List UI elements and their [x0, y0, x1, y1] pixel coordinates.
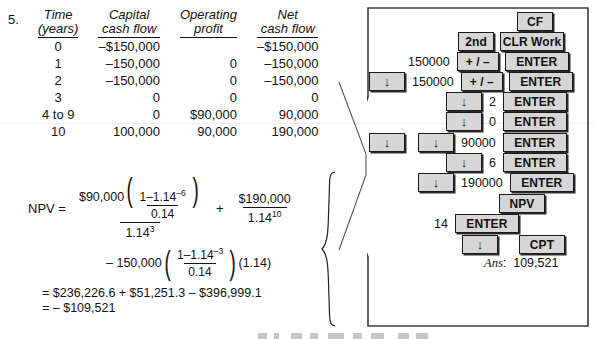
right-paren-icon: ) [192, 176, 198, 203]
annuity-numerator: 1–1.14–6 [135, 188, 189, 205]
keystroke-row-rate: 14 ENTER [430, 214, 522, 233]
key-down-arrow-icon[interactable]: ↓ [446, 112, 482, 131]
cell-capital: 100,000 [88, 123, 169, 140]
column-header-capital-cash-flow: Capital cash flow [88, 8, 169, 38]
problem-number: 5. [8, 12, 19, 27]
term-2-denominator: 1.1410 [243, 207, 287, 225]
term-3-trailing: (1.14) [238, 256, 271, 270]
term-2-numerator: $190,000 [234, 192, 296, 207]
cell-operating: $90,000 [170, 106, 247, 123]
cell-capital: –150,000 [88, 72, 169, 89]
key-enter[interactable]: ENTER [503, 112, 567, 131]
key-2nd[interactable]: 2nd [458, 32, 494, 51]
calculator-keystroke-panel: CF 2nd CLR Work 150000 + / – ENTER ↓ 150… [367, 7, 589, 327]
right-paren-icon: ) [230, 249, 236, 276]
cell-time: 0 [28, 38, 88, 55]
cell-operating [170, 38, 247, 55]
cash-flow-table: Time (years) Capital cash flow Operating… [28, 8, 328, 140]
entry-value-150000-b: 150000 [412, 75, 454, 89]
cell-time: 2 [28, 72, 88, 89]
key-cf[interactable]: CF [517, 12, 553, 31]
key-enter[interactable]: ENTER [510, 173, 574, 192]
operator-plus: + [216, 201, 224, 216]
cell-net: –150,000 [247, 72, 328, 89]
npv-formula-block: NPV = $90,000(1–1.14–60.14) 1.143 + $190… [28, 176, 300, 316]
cell-operating: 0 [170, 55, 247, 72]
answer-value: 109,521 [513, 256, 558, 270]
keystroke-rows: CF 2nd CLR Work 150000 + / – ENTER ↓ 150… [367, 7, 589, 327]
key-enter[interactable]: ENTER [505, 52, 569, 71]
table-header-row: Time (years) Capital cash flow Operating… [28, 8, 328, 38]
annuity-exponent: –3 [214, 246, 223, 256]
key-enter[interactable]: ENTER [455, 214, 519, 233]
table-row: 3 0 0 0 [28, 89, 328, 106]
entry-value-2: 2 [489, 95, 496, 109]
term-3-annuity-factor: 1–1.14–30.14 [173, 246, 227, 279]
npv-formula-line-2: – 150,000(1–1.14–30.14)(1.14) [106, 246, 300, 279]
entry-value-90000: 90000 [461, 136, 496, 150]
answer-colon: : [503, 256, 506, 270]
key-down-arrow-icon[interactable]: ↓ [418, 173, 454, 192]
key-plus-minus[interactable]: + / – [457, 52, 499, 71]
cell-capital: 0 [88, 89, 169, 106]
keystroke-row-compute: ↓ CPT [459, 235, 568, 254]
cell-operating: 0 [170, 72, 247, 89]
key-down-arrow-icon[interactable]: ↓ [418, 133, 454, 152]
cell-operating: 90,000 [170, 123, 247, 140]
entry-value-6: 6 [489, 156, 496, 170]
npv-result-line-1: = $236,226.6 + $51,251.3 – $396,999.1 [42, 286, 300, 301]
column-header-net-cash-flow: Net cash flow [247, 8, 328, 38]
left-paren-icon: ( [164, 249, 170, 276]
key-clr-work[interactable]: CLR Work [500, 32, 564, 51]
annuity-exponent: –6 [176, 188, 185, 198]
npv-label: NPV = [28, 201, 66, 216]
npv-result-block: = $236,226.6 + $51,251.3 – $396,999.1 = … [42, 286, 300, 316]
term-1-numerator: $90,000(1–1.14–60.14) [74, 176, 206, 222]
key-enter[interactable]: ENTER [503, 153, 567, 172]
keystroke-row-f01: ↓ 2 ENTER [443, 92, 570, 111]
key-enter[interactable]: ENTER [509, 72, 573, 91]
cell-net: 190,000 [247, 123, 328, 140]
key-cpt[interactable]: CPT [519, 235, 565, 254]
cell-net: 90,000 [247, 106, 328, 123]
annuity-denominator: 0.14 [147, 205, 178, 221]
key-plus-minus[interactable]: + / – [461, 72, 503, 91]
key-down-arrow-icon[interactable]: ↓ [462, 235, 498, 254]
column-header-operating-profit: Operating profit [170, 8, 247, 38]
entry-value-14: 14 [434, 217, 448, 231]
keystroke-row-c04: ↓ 190000 ENTER [415, 173, 577, 192]
npv-result-line-2: = – $109,521 [42, 301, 300, 316]
npv-formula-line-1: NPV = $90,000(1–1.14–60.14) 1.143 + $190… [28, 176, 300, 240]
keystroke-row-cf0: 150000 + / – ENTER [404, 52, 572, 71]
key-enter[interactable]: ENTER [503, 133, 567, 152]
table-row: 2 –150,000 0 –150,000 [28, 72, 328, 89]
keystroke-row-npv: NPV [496, 194, 548, 213]
cell-time: 10 [28, 123, 88, 140]
annuity-numerator: 1–1.14–3 [173, 246, 227, 263]
cell-time: 1 [28, 55, 88, 72]
keystroke-row-cf: CF [514, 12, 556, 31]
table-row: 10 100,000 90,000 190,000 [28, 123, 328, 140]
cell-net: –150,000 [247, 55, 328, 72]
key-npv[interactable]: NPV [499, 194, 545, 213]
cell-capital: –$150,000 [88, 38, 169, 55]
cell-capital: 0 [88, 106, 169, 123]
calculator-answer: Ans: 109,521 [484, 256, 558, 271]
npv-term-1: $90,000(1–1.14–60.14) 1.143 [70, 176, 210, 240]
term-1-annuity-factor: 1–1.14–60.14 [135, 188, 189, 221]
key-down-arrow-icon[interactable]: ↓ [446, 153, 482, 172]
cell-time: 3 [28, 89, 88, 106]
cell-net: 0 [247, 89, 328, 106]
cell-net: –$150,000 [247, 38, 328, 55]
key-down-arrow-icon[interactable]: ↓ [369, 133, 405, 152]
keystroke-row-f03: ↓ 6 ENTER [443, 153, 570, 172]
entry-value-0: 0 [489, 115, 496, 129]
column-header-time: Time (years) [28, 8, 88, 38]
key-enter[interactable]: ENTER [503, 92, 567, 111]
keystroke-row-clr-work: 2nd CLR Work [455, 32, 567, 51]
key-down-arrow-icon[interactable]: ↓ [446, 92, 482, 111]
key-down-arrow-icon[interactable]: ↓ [369, 72, 405, 91]
keystroke-row-c02: ↓ 0 ENTER [443, 112, 570, 131]
term-3-leading: – 150,000 [106, 256, 162, 270]
cropped-footer-artifact [258, 333, 488, 339]
